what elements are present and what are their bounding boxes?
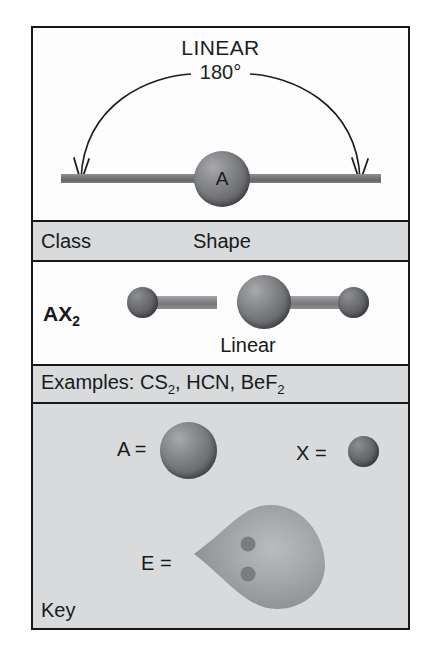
key-label-bonded-atom: X = (296, 442, 327, 465)
key-glyph-lone-pair-lobe (191, 497, 331, 612)
key-panel: A = X = E = Key (33, 402, 408, 628)
class-formula: AX2 (43, 302, 80, 329)
lone-pair-lobe-icon (191, 497, 331, 612)
shape-name-caption: Linear (113, 334, 383, 357)
central-atom-sphere-model (237, 275, 291, 329)
bond-angle-label: 180° (33, 61, 408, 84)
class-formula-subscript: 2 (72, 313, 80, 329)
example-item-1: HCN, (186, 371, 235, 393)
examples-text: Examples: CS2, HCN, BeF2 (41, 371, 285, 397)
key-glyph-small-sphere (348, 436, 379, 467)
column-header-class: Class (41, 230, 91, 253)
key-caption: Key (41, 599, 75, 622)
central-atom-label: A (194, 168, 250, 190)
column-header-shape: Shape (193, 230, 251, 253)
bonded-atom-sphere-left (127, 287, 158, 318)
examples-row: Examples: CS2, HCN, BeF2 (33, 364, 408, 402)
class-formula-main: AX (43, 302, 72, 325)
bond-angle-value: 180° (197, 61, 244, 83)
central-atom-sphere: A (194, 151, 250, 207)
key-label-central-atom: A = (117, 438, 146, 461)
shape-illustration-panel: LINEAR 180° A (33, 28, 408, 220)
example-item-2: BeF2 (241, 371, 285, 393)
vsepr-figure: LINEAR 180° A Class Shape AX2 (31, 26, 410, 630)
molecule-ball-and-stick-model (113, 276, 383, 328)
class-data-row: AX2 Linear (33, 260, 408, 364)
column-header-row: Class Shape (33, 220, 408, 260)
bonded-atom-sphere-right (338, 287, 369, 318)
example-item-0: CS2, (140, 371, 181, 393)
examples-label: Examples: (41, 371, 134, 393)
key-glyph-large-sphere (160, 422, 217, 479)
key-label-lone-pair: E = (141, 552, 172, 575)
